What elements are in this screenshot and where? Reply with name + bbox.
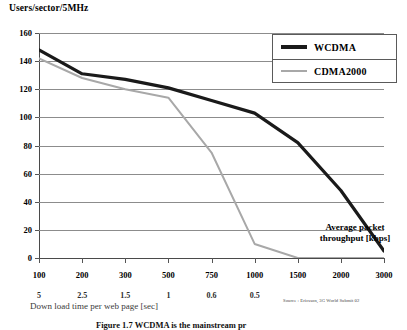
line-swatch-wcdma (281, 45, 307, 48)
x-tick-label: 1500 (289, 270, 306, 280)
throughput-annotation: Average packet throughput [kbps] (305, 222, 405, 244)
x-axis-title: Down load time per web page [sec] (30, 301, 158, 311)
x-secondary-tick-label: 0.6 (207, 291, 217, 300)
figure-caption: Figure 1.7 WCDMA is the mainstream pr (96, 320, 246, 330)
legend-label: CDMA2000 (314, 66, 367, 77)
source-note: Source : Ericsson, 3G World Submit 02 (283, 298, 359, 303)
y-tick-label: 0 (28, 254, 32, 262)
legend-separator (273, 59, 396, 60)
legend-item-cdma2000[interactable]: CDMA2000 (273, 59, 396, 83)
x-secondary-tick-label: 1 (166, 291, 170, 300)
x-secondary-tick-label: 1.5 (120, 291, 130, 300)
x-secondary-tick-label: 5 (37, 291, 41, 300)
y-tick-label: 140 (19, 57, 32, 65)
y-tick-label: 20 (24, 226, 33, 234)
legend-box: WCDMACDMA2000 (272, 34, 397, 83)
x-tick-mark (384, 258, 385, 263)
line-swatch-cdma2000 (281, 70, 307, 72)
y-tick-label: 60 (24, 170, 33, 178)
x-tick-label: 3000 (376, 270, 393, 280)
x-tick-label: 500 (162, 270, 175, 280)
y-tick-label: 120 (19, 85, 32, 93)
legend-label: WCDMA (314, 42, 356, 53)
x-secondary-tick-label: 0.5 (250, 291, 260, 300)
x-tick-label: 100 (33, 270, 46, 280)
y-tick-label: 100 (19, 113, 32, 121)
x-tick-label: 1000 (246, 270, 263, 280)
x-tick-label: 2000 (332, 270, 349, 280)
x-tick-mark (341, 258, 342, 263)
x-tick-label: 300 (119, 270, 132, 280)
legend-item-wcdma[interactable]: WCDMA (273, 35, 396, 59)
x-tick-label: 750 (205, 270, 218, 280)
x-secondary-tick-label: 2.5 (77, 291, 87, 300)
x-tick-mark (39, 258, 40, 263)
x-tick-mark (168, 258, 169, 263)
y-tick-label: 160 (19, 29, 32, 37)
x-tick-mark (212, 258, 213, 263)
y-axis-title: Users/sector/5MHz (9, 3, 88, 13)
x-tick-mark (255, 258, 256, 263)
x-tick-mark (82, 258, 83, 263)
y-tick-label: 40 (24, 198, 33, 206)
y-tick-label: 80 (24, 142, 33, 150)
x-tick-label: 200 (76, 270, 89, 280)
x-tick-mark (125, 258, 126, 263)
x-tick-mark (298, 258, 299, 263)
